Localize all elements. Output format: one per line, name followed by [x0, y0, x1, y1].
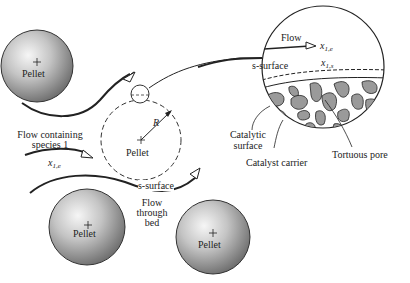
pellet-bottom-left	[49, 189, 125, 265]
focus-pellet-boundary	[101, 100, 181, 180]
species-label: species 1	[4, 139, 96, 150]
x1e-left-label: x1,e	[48, 157, 61, 172]
flow-through-bed-label-3: bed	[132, 217, 172, 228]
tortuous-pore-label: Tortuous pore	[332, 149, 388, 160]
detail-magnified-view	[252, 6, 388, 148]
detail-s-surface-label: s-surface	[252, 60, 288, 71]
detail-x1e-label: x1,e	[320, 40, 333, 55]
catalytic-surface-label-1: Catalytic	[226, 129, 270, 140]
pellet-label-3: Pellet	[198, 239, 221, 250]
pellet-label-2: Pellet	[73, 228, 96, 239]
pellet-bottom-right	[176, 200, 250, 274]
catalytic-surface-label-2: surface	[226, 140, 270, 151]
catalyst-carrier-label: Catalyst carrier	[246, 157, 307, 168]
radius-label: R	[153, 117, 159, 128]
s-surface-label: ss-surface	[140, 180, 174, 191]
magnifier-small-circle	[131, 85, 149, 103]
detail-flow-label: Flow	[281, 32, 302, 43]
detail-x1s-label: x1,s	[321, 57, 333, 72]
magnifier-connector	[149, 58, 262, 88]
pellet-top-left	[1, 30, 73, 102]
pellet-label-1: Pellet	[22, 68, 45, 79]
focus-pellet-label: Pellet	[126, 147, 149, 158]
